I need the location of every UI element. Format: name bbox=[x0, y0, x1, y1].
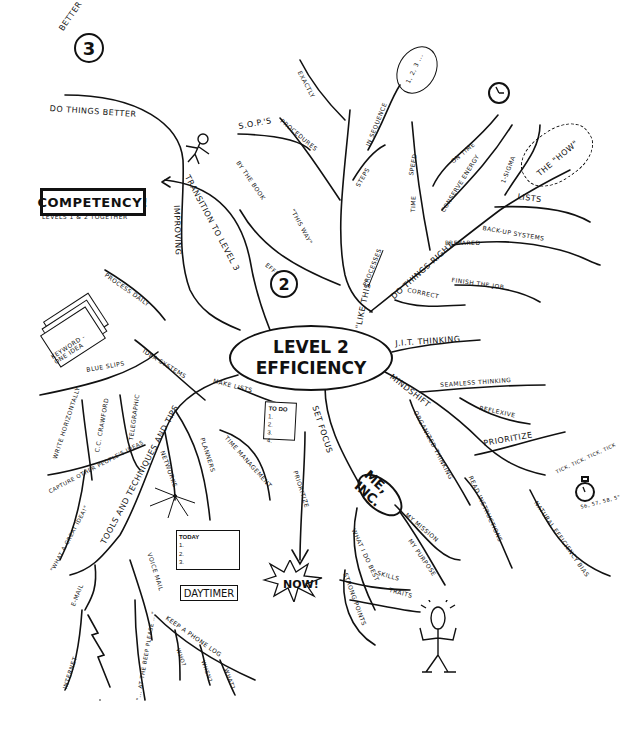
competency-subtitle: LEVELS 1 & 2 TOGETHER bbox=[42, 214, 128, 220]
jumping-figure-icon bbox=[183, 132, 213, 166]
time-label: TIME bbox=[410, 196, 417, 213]
level2-badge: 2 bbox=[270, 270, 298, 298]
today-label: TODAY bbox=[179, 533, 237, 541]
network-burst-icon bbox=[140, 478, 210, 528]
now-label: NOW! bbox=[283, 578, 319, 591]
daytimer-book-icon: TODAY 1. 2. 3. bbox=[176, 530, 240, 570]
todo-list-icon: TO DO 1. 2. 3. 4. bbox=[263, 401, 297, 441]
prepared-label: PREPARED bbox=[445, 240, 481, 246]
central-node: LEVEL 2 EFFICIENCY bbox=[229, 325, 393, 391]
central-node-line2: EFFICIENCY bbox=[256, 358, 367, 379]
today-item: 1. bbox=[179, 541, 237, 549]
competency-banner: COMPETENCY! bbox=[40, 188, 146, 216]
todo-item: 4. bbox=[267, 437, 291, 446]
improving-label: IMPROVING bbox=[172, 205, 182, 256]
clock-icon bbox=[486, 80, 512, 106]
level3-badge: 3 bbox=[74, 33, 104, 63]
central-node-line1: LEVEL 2 bbox=[273, 337, 349, 358]
lightbulb-figure-icon bbox=[408, 600, 468, 682]
today-item: 2. bbox=[179, 550, 237, 558]
daytimer-label: DAYTIMER bbox=[180, 585, 238, 601]
today-item: 3. bbox=[179, 558, 237, 566]
